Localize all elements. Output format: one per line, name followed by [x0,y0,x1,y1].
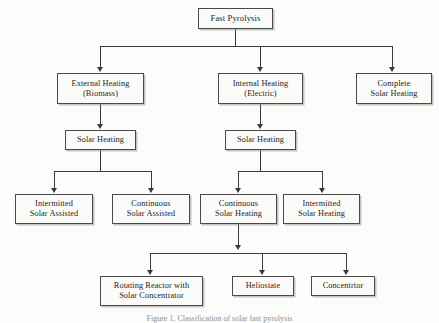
node-right-solar-heating: Solar Heating [225,130,296,150]
arrowhead-right-solar-heating [257,124,263,129]
node-internal-heating-electric: Internal Heating (Electric) [218,73,303,104]
arrowhead-left-solar-heating [97,124,103,129]
figure-caption: Figure 1. Classification of solar fast p… [0,314,439,323]
connector-drop-complete [392,46,393,68]
arrowhead-intermitted-heating [319,188,325,193]
node-concentrtor: Concentrtor [311,276,375,296]
arrowhead-external [97,67,103,72]
connector-drop-concentrtor [346,253,347,271]
node-complete-solar-heating: Complete Solar Heating [356,73,432,104]
arrowhead-continuous-heating [235,188,241,193]
node-external-heating-biomass: External Heating (Biomass) [57,73,144,104]
node-intermitted-solar-assisted: Intermitted Solar Assisted [15,194,93,224]
arrowhead-bus-level5 [235,245,241,250]
connector-bus-left-level4 [54,171,151,172]
node-rotating-reactor-solar-concentrator: Rotating Reactor with Solar Concentrator [100,276,203,306]
connector-drop-continuous-heating [238,171,239,189]
connector-left-solar-stem [100,150,101,171]
node-left-solar-heating: Solar Heating [65,130,136,150]
node-intermitted-solar-heating: Intermitted Solar Heating [283,194,360,224]
arrowhead-concentrtor [343,270,349,275]
connector-bus-level5 [150,253,346,254]
node-continuous-solar-assisted: Continuous Solar Assisted [112,194,190,224]
node-fast-pyrolysis: Fast Pyrolysis [198,8,273,29]
connector-internal-to-solar [260,104,261,124]
connector-root-stem [235,29,236,46]
connector-drop-rotating-reactor [150,253,151,271]
connector-drop-heliostate [262,253,263,271]
connector-continuous-heating-stem [238,224,239,246]
connector-right-solar-stem [260,150,261,171]
connector-drop-internal [260,46,261,68]
arrowhead-heliostate [259,270,265,275]
arrowhead-complete [389,67,395,72]
arrowhead-intermitted-assisted [51,188,57,193]
node-heliostate: Heliostate [232,276,294,296]
connector-drop-continuous-assisted [151,171,152,189]
connector-external-to-solar [100,104,101,124]
connector-drop-intermitted-heating [322,171,323,189]
node-continuous-solar-heating: Continuous Solar Heating [200,194,277,224]
connector-drop-intermitted-assisted [54,171,55,189]
arrowhead-internal [257,67,263,72]
connector-bus-right-level4 [238,171,322,172]
flowchart-canvas: Fast Pyrolysis External Heating (Biomass… [0,0,439,323]
connector-bus-level2 [100,46,392,47]
arrowhead-continuous-assisted [148,188,154,193]
connector-drop-external [100,46,101,68]
arrowhead-rotating-reactor [147,270,153,275]
